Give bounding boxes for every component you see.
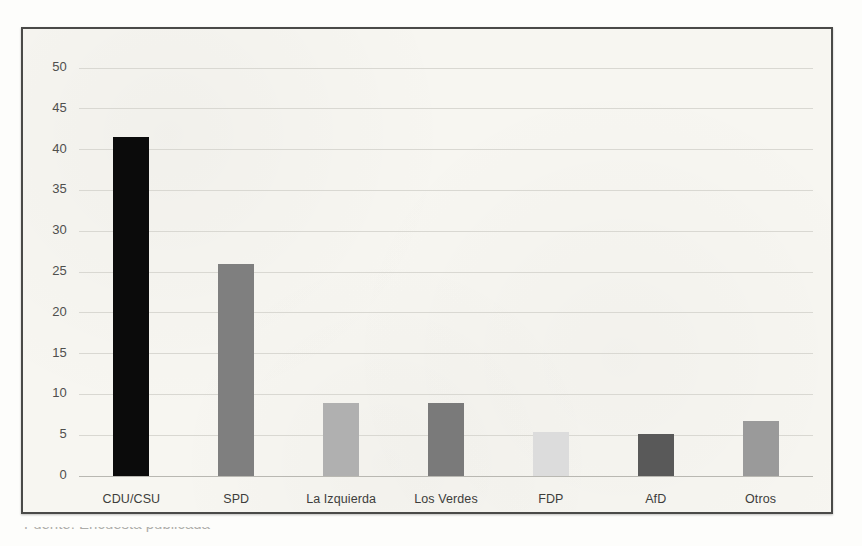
gridline <box>79 108 813 109</box>
x-axis-tick-label: FDP <box>498 492 603 506</box>
y-axis-tick-label: 5 <box>27 426 67 441</box>
bar-afd <box>638 434 674 476</box>
bar-fdp <box>533 432 569 476</box>
y-axis-tick-label: 0 <box>27 467 67 482</box>
gridline <box>79 231 813 232</box>
scanned-page: 05101520253035404550 CDU/CSUSPDLa Izquie… <box>0 0 862 546</box>
gridline <box>79 149 813 150</box>
gridline <box>79 394 813 395</box>
gridline <box>79 312 813 313</box>
x-axis-tick-label: AfD <box>603 492 708 506</box>
y-axis-tick-label: 10 <box>27 385 67 400</box>
y-axis-tick-label: 50 <box>27 59 67 74</box>
gridline <box>79 272 813 273</box>
y-axis-tick-label: 45 <box>27 100 67 115</box>
chart-figure-frame: 05101520253035404550 CDU/CSUSPDLa Izquie… <box>21 27 833 514</box>
x-axis-tick-label: Los Verdes <box>394 492 499 506</box>
gridline <box>79 353 813 354</box>
bar-chart-plot-area: 05101520253035404550 CDU/CSUSPDLa Izquie… <box>23 29 831 512</box>
bar-spd <box>218 264 254 476</box>
y-axis-tick-label: 20 <box>27 304 67 319</box>
y-axis-tick-label: 25 <box>27 263 67 278</box>
x-axis-tick-label: Otros <box>708 492 813 506</box>
bar-cdu-csu <box>113 137 149 476</box>
bar-los-verdes <box>428 403 464 476</box>
y-axis-tick-label: 35 <box>27 181 67 196</box>
gridline <box>79 190 813 191</box>
y-axis-tick-label: 30 <box>27 222 67 237</box>
y-axis-tick-label: 40 <box>27 141 67 156</box>
x-axis-tick-label: SPD <box>184 492 289 506</box>
figure-caption-text: Fuente: Encuesta publicada <box>24 527 444 533</box>
gridline <box>79 68 813 69</box>
x-axis-tick-label: CDU/CSU <box>79 492 184 506</box>
figure-caption-cropped: Fuente: Encuesta publicada <box>24 527 444 546</box>
y-axis-tick-label: 15 <box>27 345 67 360</box>
x-axis-tick-label: La Izquierda <box>289 492 394 506</box>
bar-otros <box>743 421 779 476</box>
bar-la-izquierda <box>323 403 359 476</box>
